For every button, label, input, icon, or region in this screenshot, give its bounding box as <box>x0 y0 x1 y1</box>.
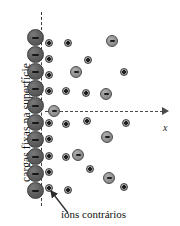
cation <box>45 168 53 176</box>
minus-sign-icon <box>52 110 57 112</box>
cation <box>62 120 70 128</box>
minus-sign-icon <box>105 136 110 138</box>
cation <box>82 89 90 97</box>
minus-sign-icon <box>32 139 39 141</box>
cation <box>45 119 53 127</box>
figure-canvas: x cargas fixas na superfície <box>0 0 180 226</box>
cation <box>120 183 128 191</box>
surface-charge <box>27 80 44 97</box>
minus-sign-icon <box>107 177 112 179</box>
cation <box>45 55 53 63</box>
anion <box>48 105 60 117</box>
surface-charge <box>27 46 44 63</box>
minus-sign-icon <box>32 105 39 107</box>
cation <box>120 68 128 76</box>
cation <box>122 119 130 127</box>
anion <box>101 131 113 143</box>
minus-sign-icon <box>32 156 39 158</box>
anion <box>100 88 112 100</box>
arrow-right-icon <box>162 107 169 115</box>
cation <box>86 165 94 173</box>
surface-charge <box>27 165 44 182</box>
surface-charge <box>27 114 44 131</box>
minus-sign-icon <box>32 88 39 90</box>
anion <box>106 35 118 47</box>
cation <box>62 87 70 95</box>
minus-sign-icon <box>32 71 39 73</box>
cation <box>45 135 53 143</box>
surface-charge <box>27 131 44 148</box>
cation <box>45 152 53 160</box>
minus-sign-icon <box>76 154 81 156</box>
surface-charge <box>27 182 44 199</box>
minus-sign-icon <box>104 93 109 95</box>
surface-charge <box>27 63 44 80</box>
cation <box>83 117 91 125</box>
cation <box>45 87 53 95</box>
surface-charge <box>27 148 44 165</box>
minus-sign-icon <box>32 190 39 192</box>
surface-charge <box>27 29 44 46</box>
surface-charge <box>27 97 44 114</box>
cation <box>64 39 72 47</box>
x-axis-label: x <box>163 122 167 133</box>
counter-ions-label: íons contrários <box>61 208 126 220</box>
minus-sign-icon <box>32 37 39 39</box>
anion <box>103 172 115 184</box>
cation <box>45 71 53 79</box>
minus-sign-icon <box>32 122 39 124</box>
minus-sign-icon <box>32 173 39 175</box>
x-axis-dashed-line <box>45 111 163 112</box>
minus-sign-icon <box>32 54 39 56</box>
anion <box>72 149 84 161</box>
minus-sign-icon <box>110 40 115 42</box>
cation <box>62 153 70 161</box>
cation <box>45 39 53 47</box>
anion <box>70 66 82 78</box>
minus-sign-icon <box>74 71 79 73</box>
cation <box>84 56 92 64</box>
